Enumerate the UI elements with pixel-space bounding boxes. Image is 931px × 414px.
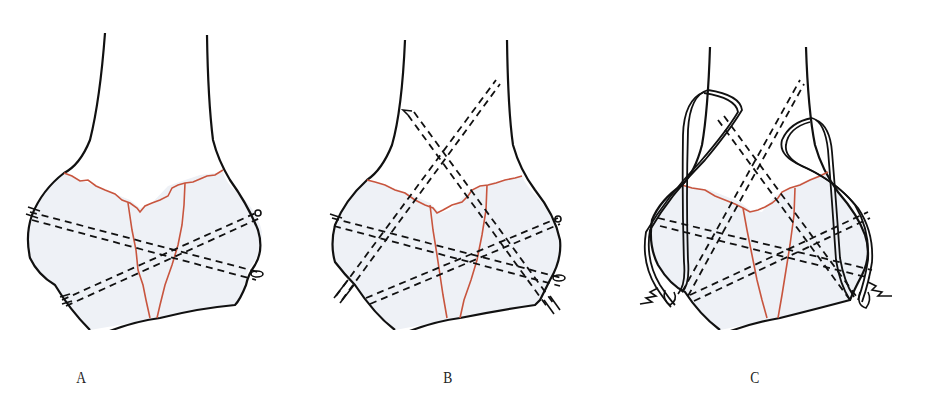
panel-label-a: A bbox=[76, 368, 86, 388]
bone-diagram-a bbox=[0, 0, 310, 330]
panel-label-c: C bbox=[750, 368, 759, 388]
panel-label-b: B bbox=[443, 368, 452, 388]
panel-b: B bbox=[300, 0, 610, 330]
bone-diagram-b bbox=[300, 0, 610, 330]
panel-c: C bbox=[610, 0, 931, 330]
bone-diagram-c bbox=[610, 0, 931, 330]
panel-a: A bbox=[0, 0, 310, 330]
